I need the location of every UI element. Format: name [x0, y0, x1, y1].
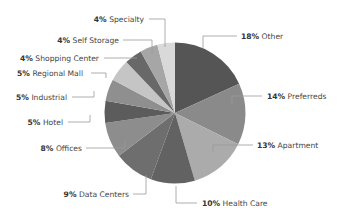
label-health-care: 10% Health Care	[202, 199, 268, 208]
label-self-storage: 4% Self Storage	[57, 36, 119, 45]
label-shopping-center: 4% Shopping Center	[20, 54, 100, 63]
leader-line-industrial	[72, 91, 94, 97]
label-other: 18% Other	[241, 32, 284, 41]
leader-line-hotel	[68, 115, 90, 122]
leader-line-health-care	[176, 186, 197, 203]
leader-line-data-centers	[133, 175, 146, 194]
leader-line-regional-mall	[91, 73, 106, 78]
label-data-centers: 9% Data Centers	[64, 190, 129, 199]
leader-line-other	[203, 36, 237, 48]
pie-chart: 18% Other 14% Preferreds 13% Apartment 1…	[0, 0, 344, 221]
label-regional-mall: 5% Regional Mall	[17, 69, 83, 78]
label-industrial: 5% Industrial	[16, 93, 67, 102]
label-hotel: 5% Hotel	[28, 118, 63, 127]
leader-line-specialty	[149, 19, 165, 47]
label-apartment: 13% Apartment	[257, 141, 318, 150]
label-specialty: 4% Specialty	[94, 15, 145, 24]
pie-slices	[105, 43, 246, 184]
label-preferreds: 14% Preferreds	[267, 92, 326, 101]
label-offices: 8% Offices	[41, 144, 82, 153]
